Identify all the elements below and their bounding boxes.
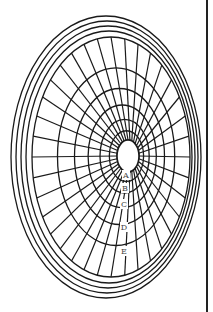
spoke-12 (72, 170, 123, 261)
spoke-11 (84, 171, 124, 270)
hub (117, 140, 139, 172)
ring-label-e: E (121, 247, 127, 256)
ring-label-d: D (121, 223, 127, 232)
ring-label-a: A (122, 171, 129, 180)
target-diagram: ABCDE (0, 0, 213, 312)
right-border-line (206, 0, 208, 312)
spoke-24 (72, 53, 123, 142)
spoke-18 (32, 156, 117, 157)
ring-label-b: B (122, 184, 128, 193)
spoke-25 (84, 44, 124, 141)
spoke-0 (139, 156, 190, 157)
ring-label-c: C (121, 200, 127, 209)
diagram-canvas: ABCDE A B C D E (0, 0, 213, 312)
